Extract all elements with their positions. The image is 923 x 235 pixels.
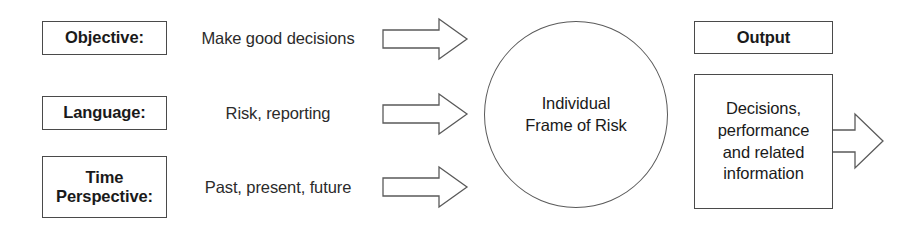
input-value-text-language: Risk, reporting <box>226 103 331 124</box>
input-label-text-time-perspective-line1: Time <box>86 168 124 187</box>
output-body-line2: performance <box>718 120 810 142</box>
center-circle-line1: Individual <box>542 93 611 114</box>
right-arrow-icon-output <box>826 113 884 169</box>
center-circle-individual-frame-of-risk: Individual Frame of Risk <box>484 21 668 208</box>
right-arrow-icon-time-perspective <box>382 166 468 208</box>
output-body-line1: Decisions, <box>726 98 801 120</box>
input-label-box-time-perspective: Time Perspective: <box>42 156 167 218</box>
output-body-box: Decisions, performance and related infor… <box>694 74 833 209</box>
input-value-text-time-perspective: Past, present, future <box>205 177 351 198</box>
input-label-text-objective: Objective: <box>65 28 144 47</box>
input-value-text-objective: Make good decisions <box>201 28 354 49</box>
center-circle-line2: Frame of Risk <box>525 115 626 136</box>
right-arrow-icon-objective <box>382 18 468 60</box>
output-body-line4: information <box>723 163 804 185</box>
output-header-box: Output <box>694 21 833 54</box>
output-body-line3: and related <box>723 142 804 164</box>
input-label-text-time-perspective-line2: Perspective: <box>56 187 153 206</box>
diagram-canvas: Objective: Make good decisions Language:… <box>0 0 923 235</box>
input-value-time-perspective: Past, present, future <box>173 170 383 204</box>
input-value-objective: Make good decisions <box>178 21 378 55</box>
right-arrow-icon-language <box>382 93 468 135</box>
input-label-box-objective: Objective: <box>42 21 167 55</box>
input-value-language: Risk, reporting <box>178 96 378 130</box>
output-header-text: Output <box>737 28 790 47</box>
input-label-text-language: Language: <box>63 103 146 122</box>
input-label-box-language: Language: <box>42 96 167 130</box>
